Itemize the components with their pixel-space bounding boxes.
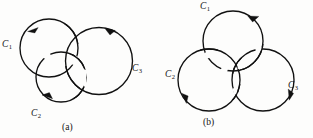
panel-b-arrow-c1	[248, 16, 259, 22]
panel-a-label-c2-letter: C	[31, 108, 37, 118]
panel-b-label-c1-subscript: 1	[207, 5, 210, 12]
panel-a-label-c2: C2	[31, 109, 41, 119]
panel-a-label-c1-subscript: 1	[9, 43, 12, 50]
panel-b-caption: (b)	[203, 118, 214, 128]
panel-a-label-c3-letter: C	[132, 63, 138, 73]
panel-b-label-c3-subscript: 3	[295, 84, 298, 91]
link-diagram-canvas	[0, 0, 313, 138]
panel-b-label-c1-letter: C	[200, 1, 206, 11]
panel-a-mask-c3-lower	[68, 83, 72, 88]
panel-b-label-c1: C1	[200, 2, 210, 12]
panel-a-mask-c3-upper	[66, 30, 68, 37]
panel-b-group	[178, 11, 294, 111]
panel-a-label-c1: C1	[2, 40, 12, 50]
panel-a-label-c2-subscript: 2	[38, 112, 41, 119]
panel-b-label-c3-letter: C	[288, 80, 294, 90]
panel-a-label-c3: C3	[132, 64, 142, 74]
panel-b-label-c2-subscript: 2	[172, 73, 175, 80]
panel-b-label-c2: C2	[165, 70, 175, 80]
panel-b-label-c2-letter: C	[165, 69, 171, 79]
panel-b-mask-noop1	[205, 12, 207, 17]
panel-b-mask-c3-under-c1b	[244, 59, 250, 63]
panel-a-label-c1-letter: C	[2, 39, 8, 49]
panel-a-mask-c2-under-c3	[84, 70, 86, 87]
panel-b-label-c3: C3	[288, 81, 298, 91]
panel-a-caption: (a)	[62, 123, 73, 133]
panel-a-mask-c2-under-c1	[45, 54, 51, 59]
figure-root: C1 C2 C3 (a) C1 C2 C3 (b)	[0, 0, 313, 138]
panel-b-mask-c1-under-c2	[206, 52, 209, 58]
panel-b-mask-c1-under-c2b	[222, 68, 228, 70]
panel-a-label-c3-subscript: 3	[139, 67, 142, 74]
panel-b-mask-c3-under-c2	[234, 88, 236, 95]
panel-a-arrow-c1	[28, 28, 39, 33]
panel-a-group	[20, 19, 133, 102]
